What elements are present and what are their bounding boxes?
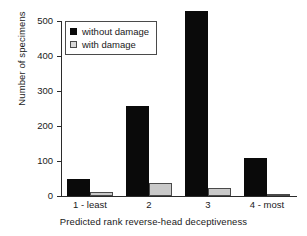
legend-label-with-damage: with damage bbox=[82, 40, 136, 50]
legend-item-with-damage: with damage bbox=[70, 38, 149, 51]
chart-legend: without damage with damage bbox=[65, 21, 157, 55]
bar-without-damage bbox=[185, 11, 208, 196]
y-axis-tick-label: 0 bbox=[13, 191, 53, 201]
y-axis-tick bbox=[57, 196, 61, 197]
bar-with-damage bbox=[149, 183, 172, 196]
y-axis-tick-label: 100 bbox=[13, 156, 53, 166]
x-axis-tick-label: 3 bbox=[205, 200, 210, 210]
bar-with-damage bbox=[208, 188, 231, 196]
bar-with-damage bbox=[267, 194, 290, 196]
legend-label-without-damage: without damage bbox=[82, 27, 149, 37]
legend-swatch-icon-with-damage bbox=[70, 41, 77, 48]
y-axis-tick bbox=[57, 56, 61, 57]
x-axis-title: Predicted rank reverse-head deceptivenes… bbox=[0, 216, 307, 227]
y-axis-tick bbox=[57, 161, 61, 162]
legend-item-without-damage: without damage bbox=[70, 25, 149, 38]
bar-without-damage bbox=[244, 158, 267, 196]
y-axis-tick-label: 400 bbox=[13, 51, 53, 61]
y-axis-tick bbox=[57, 91, 61, 92]
x-axis-tick-label: 4 - most bbox=[250, 200, 284, 210]
y-axis-tick bbox=[57, 21, 61, 22]
y-axis-line bbox=[61, 21, 62, 196]
y-axis-tick-label: 300 bbox=[13, 86, 53, 96]
y-axis-tick-label: 500 bbox=[13, 16, 53, 26]
legend-swatch-icon-without-damage bbox=[70, 28, 77, 35]
x-axis-tick-label: 1 - least bbox=[73, 200, 107, 210]
bar-with-damage bbox=[90, 192, 113, 196]
bar-without-damage bbox=[126, 106, 149, 196]
x-axis-line bbox=[61, 196, 297, 197]
y-axis-tick-label: 200 bbox=[13, 121, 53, 131]
bar-chart-figure: Number of specimens 0100200300400500 1 -… bbox=[0, 0, 307, 236]
bar-without-damage bbox=[67, 179, 90, 196]
x-axis-tick-label: 2 bbox=[146, 200, 151, 210]
y-axis-tick bbox=[57, 126, 61, 127]
